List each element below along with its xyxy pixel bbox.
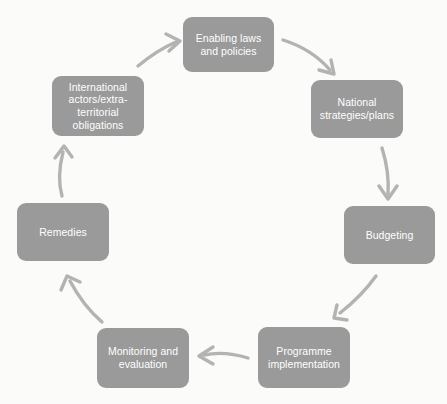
- arrow-national-to-budgeting: [379, 148, 397, 199]
- node-label: National strategies/plans: [320, 96, 394, 121]
- node-enabling-laws-and-policies[interactable]: Enabling laws and policies: [183, 17, 274, 72]
- node-programme-implementation[interactable]: Programme implementation: [258, 327, 350, 388]
- node-label: International actors/extra- territorial …: [69, 81, 128, 131]
- node-international-actors-extraterritorial-obligations[interactable]: International actors/extra- territorial …: [52, 76, 144, 136]
- arrow-enabling-to-national: [283, 40, 334, 74]
- cycle-diagram: .arrow-path { fill: none; stroke: #b3b3b…: [0, 0, 447, 404]
- arrow-budgeting-to-programme: [334, 276, 376, 320]
- node-budgeting[interactable]: Budgeting: [344, 206, 435, 264]
- node-national-strategies-plans[interactable]: National strategies/plans: [311, 80, 403, 138]
- node-label: Budgeting: [366, 229, 414, 242]
- arrow-remedies-to-international: [55, 146, 72, 196]
- node-label: Remedies: [39, 226, 87, 239]
- node-label: Enabling laws and policies: [196, 32, 261, 57]
- node-monitoring-and-evaluation[interactable]: Monitoring and evaluation: [97, 328, 189, 388]
- node-label: Monitoring and evaluation: [108, 345, 178, 370]
- arrow-monitoring-to-remedies: [61, 276, 102, 322]
- arrow-programme-to-monitoring: [199, 347, 248, 364]
- arrow-international-to-enabling: [138, 34, 180, 66]
- node-remedies[interactable]: Remedies: [17, 203, 109, 261]
- node-label: Programme implementation: [268, 345, 340, 370]
